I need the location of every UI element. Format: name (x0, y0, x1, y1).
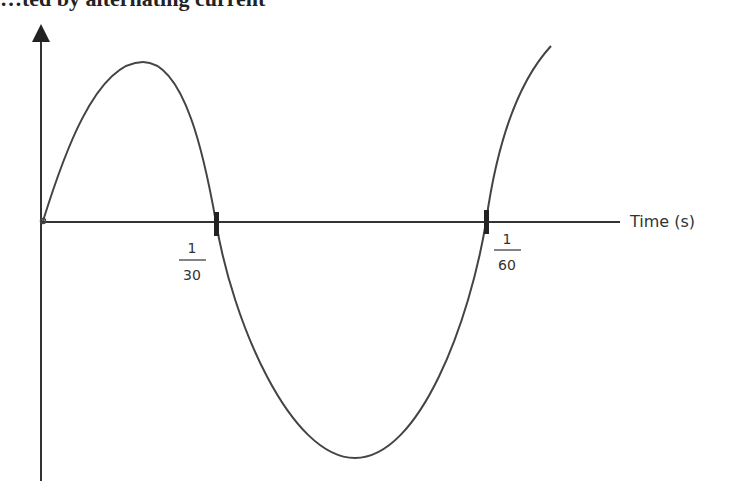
svg-text:1: 1 (188, 240, 197, 256)
tick-1-60 (484, 210, 489, 234)
svg-text:30: 30 (183, 267, 201, 283)
tick-1-30 (214, 212, 219, 236)
x-axis-label: Time (s) (629, 212, 695, 231)
tick-label-1-60: 1 60 (494, 231, 521, 273)
tick-label-1-30: 1 30 (179, 240, 206, 283)
svg-text:1: 1 (503, 231, 512, 247)
sine-wave-chart: 1 30 1 60 Time (s) (0, 0, 732, 498)
sine-curve (43, 46, 551, 458)
y-axis-arrow-icon (32, 24, 50, 42)
svg-text:60: 60 (498, 257, 516, 273)
